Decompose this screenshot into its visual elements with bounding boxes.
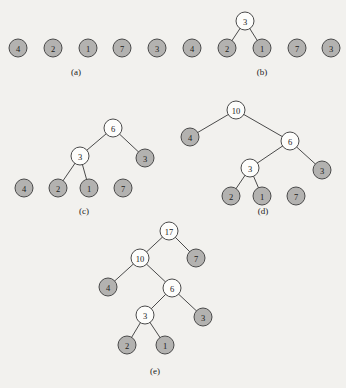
panel-caption-d: (d) [258, 206, 269, 216]
tree-node: 3 [136, 306, 154, 324]
node-label: 2 [225, 44, 229, 54]
tree-node: 3 [71, 147, 89, 165]
node-label: 3 [201, 313, 205, 323]
tree-node: 6 [281, 132, 299, 150]
tree-node: 3 [241, 159, 259, 177]
node-label: 2 [51, 44, 55, 54]
node-label: 1 [260, 44, 264, 54]
tree-node: 6 [163, 279, 181, 297]
panel-d: 104633217(d) [181, 101, 331, 216]
node-label: 1 [163, 341, 167, 351]
tree-node: 4 [9, 39, 27, 57]
tree-node: 1 [253, 187, 271, 205]
tree-node: 3 [148, 39, 166, 57]
node-label: 1 [87, 184, 91, 194]
node-label: 7 [120, 44, 124, 54]
panel-e: 17107463321(e) [99, 222, 212, 376]
node-label: 7 [121, 184, 125, 194]
tree-node: 4 [15, 179, 33, 197]
node-label: 3 [248, 164, 252, 174]
tree-node: 4 [99, 278, 117, 296]
node-label: 7 [294, 192, 298, 202]
tree-node: 2 [49, 179, 67, 197]
node-label: 7 [194, 254, 198, 264]
panel-a: 42173(a) [9, 39, 166, 77]
tree-node: 1 [156, 336, 174, 354]
figure-canvas: 42173(a)342173(b)6334217(c)104633217(d)1… [0, 0, 346, 388]
panel-caption-e: (e) [150, 366, 160, 376]
tree-node: 2 [44, 39, 62, 57]
tree-node: 3 [194, 308, 212, 326]
panel-b: 342173(b) [183, 12, 340, 77]
tree-node: 10 [131, 249, 149, 267]
tree-node: 6 [104, 119, 122, 137]
node-label: 2 [56, 184, 60, 194]
tree-node: 7 [187, 249, 205, 267]
tree-node: 2 [218, 39, 236, 57]
panel-caption-b: (b) [257, 67, 268, 77]
tree-node: 4 [181, 128, 199, 146]
node-label: 3 [155, 44, 159, 54]
tree-node: 3 [236, 12, 254, 30]
panel-caption-a: (a) [71, 67, 81, 77]
tree-node: 3 [313, 161, 331, 179]
tree-node: 2 [222, 187, 240, 205]
node-label: 10 [136, 254, 145, 264]
tree-node: 2 [118, 336, 136, 354]
tree-node: 1 [80, 179, 98, 197]
tree-node: 10 [227, 101, 245, 119]
node-label: 6 [170, 284, 174, 294]
node-label: 17 [165, 227, 174, 237]
tree-node: 3 [322, 39, 340, 57]
tree-node: 7 [287, 187, 305, 205]
node-label: 3 [78, 152, 82, 162]
tree-node: 7 [113, 39, 131, 57]
node-label: 10 [232, 106, 241, 116]
tree-node: 1 [253, 39, 271, 57]
tree-node: 1 [79, 39, 97, 57]
tree-node: 4 [183, 39, 201, 57]
node-label: 3 [329, 44, 333, 54]
node-label: 1 [86, 44, 90, 54]
node-label: 6 [288, 137, 292, 147]
tree-construction-figure: 42173(a)342173(b)6334217(c)104633217(d)1… [0, 0, 346, 388]
tree-node: 3 [136, 149, 154, 167]
node-label: 2 [125, 341, 129, 351]
tree-node: 7 [114, 179, 132, 197]
panel-c: 6334217(c) [15, 119, 154, 216]
panel-caption-c: (c) [79, 206, 89, 216]
node-label: 3 [320, 166, 324, 176]
node-label: 3 [143, 311, 147, 321]
node-label: 6 [111, 124, 115, 134]
node-label: 3 [143, 154, 147, 164]
node-label: 3 [243, 17, 247, 27]
tree-node: 7 [288, 39, 306, 57]
tree-node: 17 [160, 222, 178, 240]
node-label: 7 [295, 44, 299, 54]
node-label: 2 [229, 192, 233, 202]
node-label: 1 [260, 192, 264, 202]
